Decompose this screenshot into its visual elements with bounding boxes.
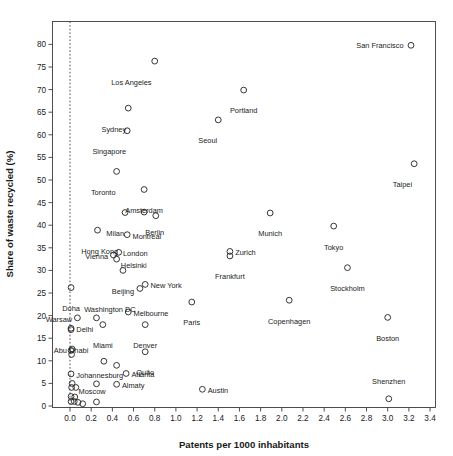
x-tick-label: 0.0 <box>64 414 76 423</box>
data-point-label: Milan <box>106 229 124 238</box>
x-tick-label: 3.0 <box>382 414 394 423</box>
data-point-label: Sydney <box>101 125 126 134</box>
data-point-label: Boston <box>376 334 399 343</box>
x-tick-label: 1.2 <box>191 414 203 423</box>
y-tick-label: 25 <box>37 289 47 298</box>
data-point-label: Munich <box>258 229 282 238</box>
y-tick-label: 80 <box>37 40 47 49</box>
data-point-label: Doha <box>62 304 81 313</box>
data-point-label: Almaty <box>122 381 145 390</box>
scatter-plot-svg: 05101520253035404550556065707580 0.00.20… <box>0 0 453 456</box>
y-tick-label: 35 <box>37 244 47 253</box>
data-point-label: Zurich <box>235 248 256 257</box>
scatter-chart-figure: 05101520253035404550556065707580 0.00.20… <box>0 0 453 456</box>
data-point-label: Stockholm <box>330 284 365 293</box>
data-point-label: Washington DC <box>84 305 136 314</box>
data-point-label: Frankfurt <box>215 272 245 281</box>
data-point-label: Helsinki <box>121 261 147 270</box>
y-tick-label: 55 <box>37 153 47 162</box>
x-tick-label: 1.0 <box>170 414 182 423</box>
data-point-label: Delhi <box>76 325 93 334</box>
x-tick-label: 3.4 <box>424 414 436 423</box>
y-tick-label: 10 <box>37 357 47 366</box>
y-axis-title: Share of waste recycled (%) <box>4 151 15 278</box>
data-point-label: Austin <box>208 386 229 395</box>
data-point-label: Seoul <box>198 136 217 145</box>
x-tick-label: 0.6 <box>128 414 140 423</box>
data-point-label: New York <box>150 281 182 290</box>
y-tick-label: 50 <box>37 176 47 185</box>
x-axis-title: Patents per 1000 inhabitants <box>179 439 309 450</box>
data-point-label: Montreal <box>132 232 161 241</box>
data-point-label: Miami <box>93 341 113 350</box>
x-tick-label: 1.8 <box>255 414 267 423</box>
data-point-label: Portland <box>230 106 258 115</box>
y-tick-label: 75 <box>37 63 47 72</box>
y-tick-label: 30 <box>37 266 47 275</box>
y-tick-label: 70 <box>37 86 47 95</box>
data-point-label: Shenzhen <box>372 377 405 386</box>
y-tick-label: 15 <box>37 334 47 343</box>
data-point-label: Moscow <box>78 387 106 396</box>
data-point-label: Tokyo <box>324 243 343 252</box>
data-point-label: Amsterdam <box>125 206 163 215</box>
x-tick-label: 2.2 <box>297 414 309 423</box>
y-tick-label: 60 <box>37 131 47 140</box>
data-point-label: Johannesburg <box>76 371 123 380</box>
data-point-label: Abu Dhabi <box>54 346 89 355</box>
x-tick-label: 2.6 <box>340 414 352 423</box>
y-tick-label: 45 <box>37 199 47 208</box>
data-point-label: Beijing <box>112 287 134 296</box>
x-tick-label: 3.2 <box>403 414 415 423</box>
x-tick-label: 0.8 <box>149 414 161 423</box>
y-tick-label: 65 <box>37 108 47 117</box>
data-point-label: Copenhagen <box>268 317 310 326</box>
data-point-label: Los Angeles <box>111 78 152 87</box>
x-tick-label: 0.4 <box>107 414 119 423</box>
data-point-label: London <box>123 249 148 258</box>
data-point-label: Warsaw <box>46 315 73 324</box>
data-point-label: Taipei <box>393 180 413 189</box>
x-tick-label: 2.0 <box>276 414 288 423</box>
y-tick-label: 40 <box>37 221 47 230</box>
data-point-label: San Francisco <box>356 41 403 50</box>
x-tick-label: 0.2 <box>85 414 97 423</box>
data-point-label: Singapore <box>92 147 126 156</box>
x-tick-label: 2.8 <box>361 414 373 423</box>
data-point-label: Melbourne <box>134 309 169 318</box>
y-tick-label: 0 <box>41 402 46 411</box>
data-point-label: Toronto <box>91 188 116 197</box>
data-point-label: Atlanta <box>131 370 155 379</box>
data-point-label: Vienna <box>85 252 109 261</box>
x-tick-label: 1.4 <box>213 414 225 423</box>
y-tick-label: 5 <box>41 379 46 388</box>
data-point-label: Paris <box>183 318 200 327</box>
data-point-label: Denver <box>133 341 157 350</box>
x-tick-label: 1.6 <box>234 414 246 423</box>
x-tick-label: 2.4 <box>318 414 330 423</box>
